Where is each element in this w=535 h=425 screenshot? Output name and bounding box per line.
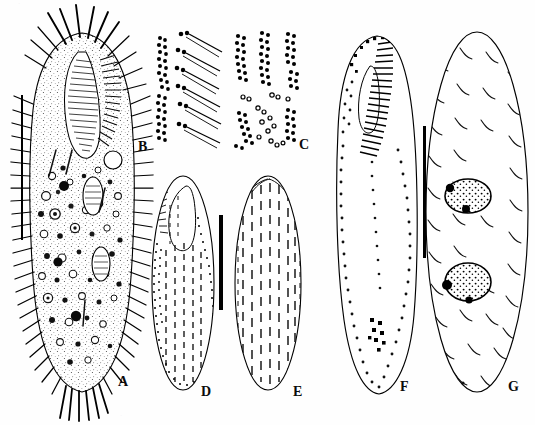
scale-bar-de bbox=[219, 215, 223, 310]
panel-a-artwork bbox=[11, 5, 153, 421]
panel-g-artwork bbox=[426, 32, 528, 392]
footer-text: · bbox=[120, 412, 480, 422]
scale-bar-a bbox=[21, 95, 23, 240]
panel-label-f: F bbox=[400, 380, 409, 394]
scale-bar-fg bbox=[423, 126, 426, 258]
panel-c-artwork bbox=[234, 31, 299, 150]
panel-label-e: E bbox=[293, 385, 302, 399]
panel-label-b: B bbox=[138, 140, 147, 154]
panel-label-d: D bbox=[201, 385, 211, 399]
plate-artwork bbox=[0, 0, 535, 425]
panel-b-artwork bbox=[156, 31, 222, 148]
panel-e-artwork bbox=[235, 176, 301, 390]
panel-label-c: C bbox=[299, 138, 309, 152]
panel-f-artwork bbox=[337, 36, 418, 394]
figure-plate: · bbox=[0, 0, 535, 425]
panel-d-artwork bbox=[152, 176, 214, 390]
panel-label-a: A bbox=[118, 375, 128, 389]
panel-label-g: G bbox=[508, 380, 519, 394]
